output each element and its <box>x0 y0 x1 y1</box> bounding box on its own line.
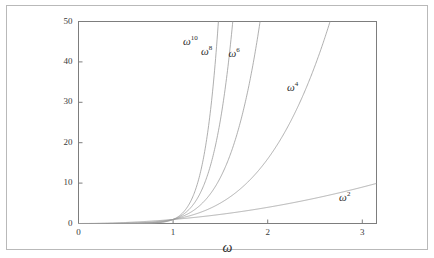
y-tick-label: 40 <box>45 56 73 66</box>
curve-annotation-exponent: 4 <box>295 80 299 88</box>
curve-ω-2 <box>79 183 377 223</box>
x-tick-label: 1 <box>161 227 185 237</box>
curve-annotation-base: ω <box>287 81 295 93</box>
curve-ω-10 <box>79 22 219 224</box>
curve-annotation-2: ω2 <box>339 190 350 203</box>
curve-annotation-6: ω6 <box>228 46 239 59</box>
curve-annotation-base: ω <box>339 191 347 203</box>
y-tick-label: 10 <box>45 177 73 187</box>
x-tick-label: 2 <box>256 227 280 237</box>
y-tick-label: 50 <box>45 16 73 26</box>
curve-annotation-10: ω10 <box>183 34 198 47</box>
curve-annotation-base: ω <box>183 34 191 46</box>
curve-annotation-exponent: 6 <box>236 46 240 54</box>
x-tick-label: 0 <box>67 227 91 237</box>
curve-annotation-exponent: 8 <box>209 44 213 52</box>
x-tick-label: 3 <box>350 227 374 237</box>
curve-annotation-4: ω4 <box>287 80 298 93</box>
curve-annotation-base: ω <box>201 44 209 56</box>
curve-annotation-exponent: 10 <box>191 34 198 42</box>
y-tick-label: 30 <box>45 96 73 106</box>
figure-container: 010203040500123 ω2ω4ω6ω8ω10 ω <box>0 0 434 258</box>
curve-annotation-exponent: 2 <box>347 190 351 198</box>
x-axis-label: ω <box>39 240 417 256</box>
y-tick-label: 20 <box>45 137 73 147</box>
curve-annotation-8: ω8 <box>201 44 212 57</box>
